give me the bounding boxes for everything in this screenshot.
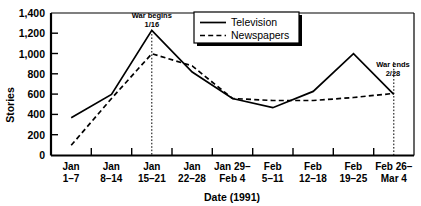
- x-tick-label-line2: 1–7: [63, 173, 80, 184]
- y-tick-label: 1,200: [19, 27, 45, 39]
- chart-canvas: 1,400 1,200 1,000 800 600 400 200 0 Stor…: [0, 0, 421, 206]
- annotation-line-1: War ends: [376, 60, 409, 69]
- x-tick-label-line1: Jan: [143, 161, 160, 172]
- y-tick-label: 600: [27, 88, 45, 100]
- x-tick-label-line2: 15–21: [138, 173, 166, 184]
- x-axis-ticks: [91, 148, 373, 156]
- annotation-line-2: 1/16: [144, 20, 159, 29]
- legend-label-television: Television: [231, 16, 277, 28]
- annotation-line-1: War begins: [132, 11, 172, 20]
- x-tick-label-line2: 8–14: [100, 173, 123, 184]
- x-tick-label-line1: Jan: [103, 161, 120, 172]
- x-tick-label-line2: 5–11: [262, 173, 284, 184]
- legend-label-newspapers: Newspapers: [231, 29, 289, 41]
- x-tick-label-line2: 12–18: [299, 173, 327, 184]
- y-axis-title: Stories: [4, 87, 16, 123]
- x-tick-label-line1: Feb: [344, 161, 362, 172]
- x-tick-label-line2: Mar 4: [381, 173, 408, 184]
- annotation-line-2: 2/28: [386, 69, 401, 78]
- line-chart-figure: 1,400 1,200 1,000 800 600 400 200 0 Stor…: [0, 0, 421, 206]
- x-axis-title: Date (1991): [204, 191, 260, 203]
- x-tick-label-line1: Jan: [183, 161, 200, 172]
- chart-legend: Television Newspapers: [194, 12, 302, 46]
- y-tick-label: 800: [27, 68, 45, 80]
- x-tick-label-line1: Jan 29–: [214, 161, 251, 172]
- annotation-war-ends: War ends 2/28: [376, 60, 409, 78]
- annotation-war-begins: War begins 1/16: [132, 11, 172, 29]
- y-tick-label: 400: [27, 108, 45, 120]
- x-tick-label-line1: Feb: [264, 161, 282, 172]
- x-tick-label-line1: Jan: [62, 161, 79, 172]
- x-tick-label-line2: 22–28: [178, 173, 206, 184]
- x-tick-label-line2: Feb 4: [219, 173, 246, 184]
- y-tick-label: 1,000: [19, 48, 45, 60]
- y-tick-label: 0: [39, 149, 45, 161]
- x-tick-label-line1: Feb 26–: [375, 161, 413, 172]
- y-tick-label: 1,400: [19, 7, 45, 19]
- y-tick-label: 200: [27, 129, 45, 141]
- x-tick-label-line2: 19–25: [339, 173, 367, 184]
- x-axis-tick-labels: Jan 1–7 Jan 8–14 Jan 15–21 Jan 22–28 Jan…: [62, 161, 412, 184]
- series-line-newspapers: [71, 54, 394, 146]
- y-axis-tick-labels: 1,400 1,200 1,000 800 600 400 200 0: [19, 7, 45, 161]
- x-tick-label-line1: Feb: [304, 161, 322, 172]
